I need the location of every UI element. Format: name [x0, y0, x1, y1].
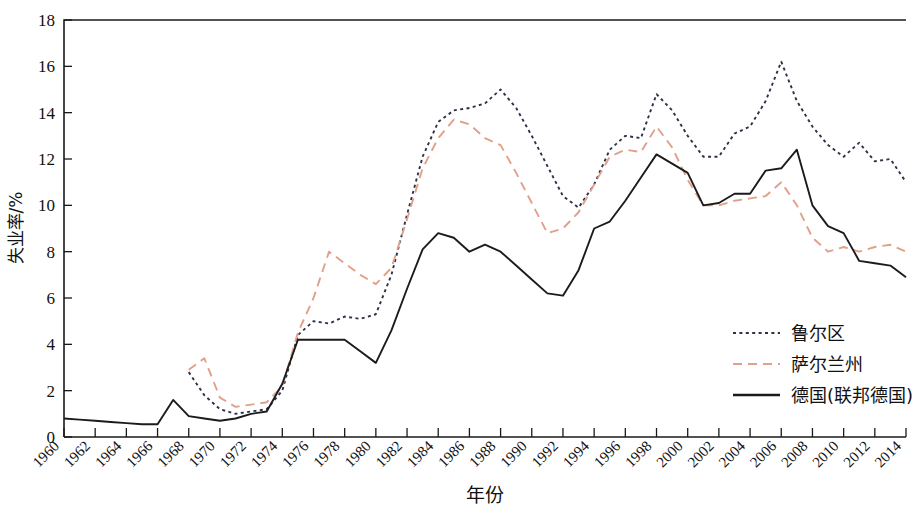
- legend-label-0: 鲁尔区: [791, 323, 845, 344]
- legend-label-2: 德国(联邦德国): [791, 385, 913, 406]
- x-tick-label: 2004: [716, 437, 749, 470]
- x-tick-label: 1986: [435, 437, 468, 470]
- x-tick-label: 1970: [186, 438, 219, 471]
- data-series-group: [64, 62, 906, 425]
- x-tick-label: 1990: [497, 438, 530, 471]
- x-tick-label: 2002: [684, 438, 717, 471]
- y-tick-label: 16: [38, 57, 55, 76]
- x-tick-label: 1996: [591, 437, 624, 470]
- x-tick-label: 1982: [373, 438, 406, 471]
- chart-canvas: 024681012141618 196019621964196619681970…: [0, 0, 921, 512]
- x-tick-label: 1988: [466, 438, 499, 471]
- legend-label-1: 萨尔兰州: [791, 354, 863, 375]
- y-axis-title: 失业率/%: [6, 192, 26, 265]
- x-tick-label: 1984: [404, 437, 437, 470]
- chart-legend: 鲁尔区萨尔兰州德国(联邦德国): [733, 323, 913, 406]
- x-axis-title: 年份: [466, 484, 504, 506]
- unemployment-rate-line-chart: 024681012141618 196019621964196619681970…: [0, 0, 921, 512]
- x-tick-label: 1976: [279, 437, 312, 470]
- x-tick-label: 2008: [778, 438, 811, 471]
- x-tick-label: 2012: [840, 438, 873, 471]
- y-tick-label: 2: [47, 382, 56, 401]
- x-tick-label: 1978: [310, 438, 343, 471]
- y-tick-label: 12: [38, 150, 55, 169]
- x-tick-label: 2010: [809, 438, 842, 471]
- x-tick-label: 2014: [872, 437, 905, 470]
- y-tick-label: 18: [38, 11, 55, 30]
- y-axis: 024681012141618: [38, 11, 906, 447]
- y-tick-label: 10: [38, 196, 55, 215]
- x-tick-label: 1964: [92, 437, 125, 470]
- y-tick-label: 14: [38, 104, 56, 123]
- x-tick-label: 1962: [61, 438, 94, 471]
- x-axis: 1960196219641966196819701972197419761978…: [30, 428, 906, 470]
- x-tick-label: 1968: [154, 438, 187, 471]
- y-tick-label: 4: [47, 335, 56, 354]
- x-tick-label: 2006: [747, 437, 780, 470]
- x-tick-label: 1998: [622, 438, 655, 471]
- x-tick-label: 2000: [653, 438, 686, 471]
- x-tick-label: 1992: [529, 438, 562, 471]
- x-tick-label: 1972: [217, 438, 250, 471]
- x-tick-label: 1966: [123, 437, 156, 470]
- series-line-2: [64, 150, 906, 425]
- x-tick-label: 1974: [248, 437, 281, 470]
- y-tick-label: 6: [47, 289, 56, 308]
- x-tick-label: 1960: [30, 438, 63, 471]
- x-tick-label: 1994: [560, 437, 593, 470]
- y-tick-label: 8: [47, 243, 56, 262]
- x-tick-label: 1980: [341, 438, 374, 471]
